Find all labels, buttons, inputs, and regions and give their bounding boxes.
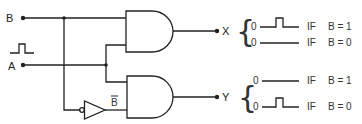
x-cond2-if: IF: [307, 37, 316, 48]
y-cond2-pulse-waveform: [262, 98, 299, 107]
and-gate-y: [127, 76, 173, 118]
input-b-label: B: [6, 12, 13, 24]
output-y-terminal: [215, 95, 219, 99]
not-b-label: B: [111, 97, 118, 108]
y-cond1-condition: B = 1: [328, 75, 352, 86]
wire-a-to-gates: [106, 45, 127, 82]
logic-circuit-diagram: B A B X Y { 0 IF B = 1 0 IF B = 0 { 0 IF…: [0, 0, 362, 124]
x-cond1-condition: B = 1: [328, 21, 352, 32]
output-x-terminal: [215, 29, 219, 33]
x-cond1-if: IF: [307, 21, 316, 32]
y-cond2-level: 0: [253, 101, 259, 112]
wire-b-to-inverter: [64, 18, 80, 110]
inverter-gate: [85, 101, 106, 119]
x-cond2-level: 0: [251, 37, 257, 48]
and-gate-x: [126, 11, 173, 52]
x-cond1-pulse-waveform: [260, 18, 299, 27]
output-x-label: X: [222, 25, 230, 37]
input-pulse-icon: [10, 44, 34, 53]
y-cond2-condition: B = 0: [328, 101, 352, 112]
y-cond2-if: IF: [307, 101, 316, 112]
input-a-label: A: [8, 60, 16, 72]
inverter-bubble: [80, 108, 85, 113]
x-cond1-level: 0: [251, 21, 257, 32]
y-cond1-if: IF: [307, 75, 316, 86]
x-cond2-condition: B = 0: [328, 37, 352, 48]
output-y-label: Y: [222, 91, 230, 103]
y-cond1-level: 0: [253, 75, 259, 86]
